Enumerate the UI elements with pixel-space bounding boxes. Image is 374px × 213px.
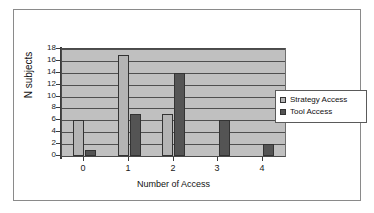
bar: [85, 150, 96, 156]
bar-group: [107, 49, 152, 156]
legend-label-tool-access: Tool Access: [290, 108, 332, 116]
y-axis-tick: [56, 107, 61, 108]
y-axis-title: N subjects: [24, 35, 34, 115]
bars-layer: [62, 49, 285, 156]
y-axis-tick: [56, 119, 61, 120]
y-axis-tick-label: 0: [40, 151, 56, 159]
x-axis-tick-label: 2: [161, 164, 185, 173]
bar: [174, 73, 185, 156]
chart-frame: 024681012141618 N subjects Number of Acc…: [13, 9, 361, 201]
x-axis-tick-label: 0: [71, 164, 95, 173]
chart-legend: Strategy Access Tool Access: [275, 90, 367, 123]
y-axis-tick-label: 10: [40, 92, 56, 100]
legend-item: Tool Access: [280, 106, 362, 118]
y-axis-tick: [56, 84, 61, 85]
bar-group: [62, 49, 107, 156]
x-axis-tick: [128, 157, 129, 161]
y-axis-tick-label: 16: [40, 56, 56, 64]
bar: [162, 114, 173, 156]
y-axis-tick-label: 18: [40, 44, 56, 52]
y-axis-tick-label: 2: [40, 139, 56, 147]
y-axis-tick-label: 4: [40, 127, 56, 135]
legend-item: Strategy Access: [280, 94, 362, 106]
legend-swatch-strategy-access: [280, 97, 286, 103]
y-axis-tick: [56, 143, 61, 144]
bar: [219, 120, 230, 156]
y-axis-tick-label: 6: [40, 115, 56, 123]
bar-group: [196, 49, 241, 156]
y-axis-tick: [56, 72, 61, 73]
x-axis-tick-label: 1: [116, 164, 140, 173]
x-axis-tick: [83, 157, 84, 161]
legend-label-strategy-access: Strategy Access: [290, 96, 347, 104]
x-axis-tick: [173, 157, 174, 161]
y-axis-tick: [56, 96, 61, 97]
y-axis-tick-label: 14: [40, 68, 56, 76]
bar: [118, 55, 129, 156]
y-axis-tick: [56, 155, 61, 156]
x-axis-tick: [217, 157, 218, 161]
y-axis-tick-labels: 024681012141618: [34, 10, 56, 202]
bar: [263, 144, 274, 156]
bar: [130, 114, 141, 156]
bar: [73, 120, 84, 156]
legend-swatch-tool-access: [280, 109, 286, 115]
x-axis-tick-label: 4: [250, 164, 274, 173]
y-axis-tick: [56, 131, 61, 132]
plot-area: [61, 48, 286, 157]
y-axis-tick: [56, 60, 61, 61]
bar-group: [151, 49, 196, 156]
x-axis-title: Number of Access: [61, 180, 286, 189]
x-axis-tick: [262, 157, 263, 161]
x-axis-tick-label: 3: [205, 164, 229, 173]
y-axis-tick-label: 12: [40, 80, 56, 88]
y-axis-tick: [56, 48, 61, 49]
y-axis-tick-label: 8: [40, 103, 56, 111]
